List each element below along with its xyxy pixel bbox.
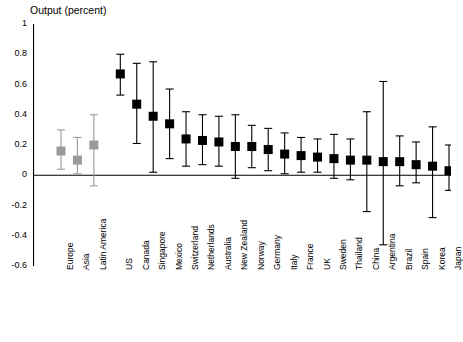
data-point bbox=[280, 133, 289, 174]
data-point bbox=[116, 54, 125, 95]
x-tick-label: Norway bbox=[256, 241, 266, 270]
y-tick-label: -0.6 bbox=[1, 260, 27, 270]
data-point bbox=[362, 112, 371, 212]
data-point bbox=[165, 89, 174, 159]
x-tick-label: Brazil bbox=[404, 249, 414, 270]
x-tick-label: Switzerland bbox=[190, 226, 200, 270]
y-tick-label: -0.4 bbox=[1, 230, 27, 240]
y-tick-label: 0.6 bbox=[1, 79, 27, 89]
x-tick-label: Canada bbox=[141, 240, 151, 270]
y-tick-label: 0.2 bbox=[1, 139, 27, 149]
x-tick-label: China bbox=[371, 248, 381, 270]
data-point bbox=[149, 62, 158, 172]
x-tick-label: Thailand bbox=[354, 237, 364, 270]
y-tick-label: -0.2 bbox=[1, 200, 27, 210]
x-tick-label: Mexico bbox=[174, 243, 184, 270]
data-point bbox=[329, 134, 338, 178]
x-tick-label: Netherlands bbox=[206, 224, 216, 270]
x-tick-label: Singapore bbox=[157, 231, 167, 270]
x-tick-label: Germany bbox=[272, 235, 282, 270]
data-point bbox=[73, 137, 82, 173]
x-tick-label: Korea bbox=[437, 247, 447, 270]
data-point bbox=[428, 127, 437, 218]
data-point bbox=[297, 137, 306, 172]
y-tick-label: 0.8 bbox=[1, 48, 27, 58]
x-tick-label: Asia bbox=[81, 253, 91, 270]
x-tick-label: Europe bbox=[65, 243, 75, 270]
x-tick-label: Spain bbox=[420, 248, 430, 270]
data-point bbox=[264, 128, 273, 170]
data-point bbox=[132, 63, 141, 143]
x-tick-label: Argentina bbox=[387, 234, 397, 270]
x-tick-label: Japan bbox=[453, 247, 463, 270]
x-tick-label: Australia bbox=[223, 237, 233, 270]
y-tick-label: 0 bbox=[1, 169, 27, 179]
x-tick-label: Italy bbox=[289, 254, 299, 270]
y-tick-label: 0.4 bbox=[1, 109, 27, 119]
chart-title: Output (percent) bbox=[30, 4, 106, 16]
data-point bbox=[231, 115, 240, 179]
data-point bbox=[379, 81, 388, 244]
data-point bbox=[445, 145, 452, 190]
data-point bbox=[247, 125, 256, 167]
x-tick-label: Latin America bbox=[98, 219, 108, 271]
y-tick-label: 1 bbox=[1, 18, 27, 28]
data-point bbox=[57, 130, 66, 169]
x-tick-label: New Zealand bbox=[239, 220, 249, 270]
data-point bbox=[198, 115, 207, 165]
data-point bbox=[346, 139, 355, 180]
x-tick-label: US bbox=[124, 258, 134, 270]
data-point bbox=[182, 112, 191, 166]
data-point bbox=[313, 139, 322, 172]
data-point bbox=[214, 116, 223, 166]
x-tick-label: Sweden bbox=[338, 239, 348, 270]
x-tick-label: UK bbox=[322, 258, 332, 270]
x-tick-label: France bbox=[305, 244, 315, 270]
data-point bbox=[395, 136, 404, 186]
data-point bbox=[412, 142, 421, 183]
chart-container: Output (percent) -0.6-0.4-0.200.20.40.60… bbox=[0, 0, 463, 342]
